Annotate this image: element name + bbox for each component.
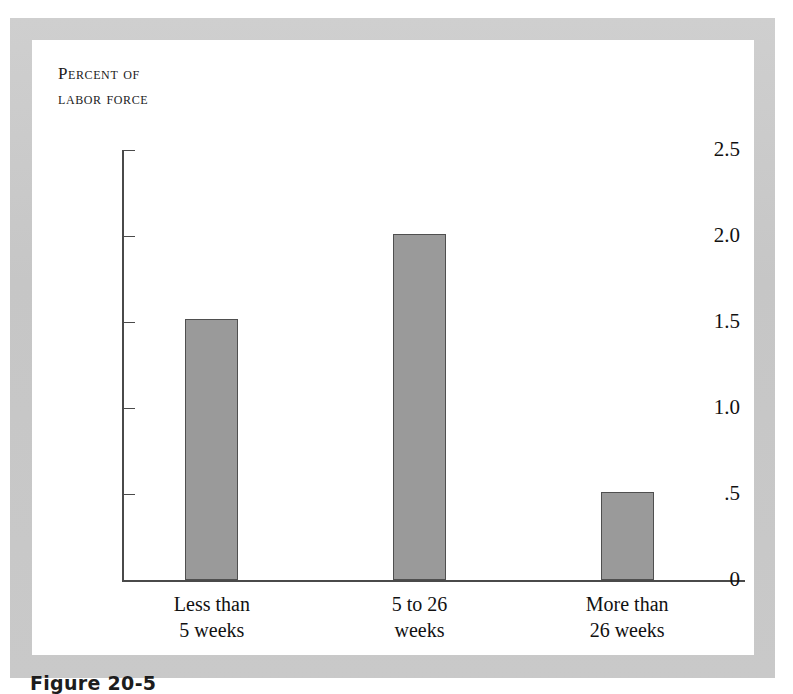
chart-panel: Percent of labor force 2.52.01.51.0.50 L… bbox=[32, 40, 754, 655]
y-tick-mark bbox=[124, 322, 135, 323]
y-tick-label: 2.5 bbox=[668, 139, 754, 160]
x-axis-line bbox=[122, 580, 745, 582]
y-axis-title-line-2: labor force bbox=[58, 87, 148, 112]
x-axis-category-label-line: 5 weeks bbox=[108, 618, 316, 644]
x-axis-category-label-line: More than bbox=[523, 592, 731, 618]
y-axis-line bbox=[122, 150, 124, 582]
y-tick-label: 1.0 bbox=[668, 397, 754, 418]
y-tick-label: .5 bbox=[668, 483, 754, 504]
x-axis-category-label: More than26 weeks bbox=[523, 592, 731, 643]
y-tick-label: 0 bbox=[668, 569, 754, 590]
y-tick-mark bbox=[124, 408, 135, 409]
x-axis-category-label-line: weeks bbox=[316, 618, 524, 644]
x-axis-category-label-line: 26 weeks bbox=[523, 618, 731, 644]
y-axis-title-line-1: Percent of bbox=[58, 62, 148, 87]
x-axis-category-label: 5 to 26weeks bbox=[316, 592, 524, 643]
y-tick-label: 2.0 bbox=[668, 225, 754, 246]
y-tick-mark bbox=[124, 580, 135, 581]
bar bbox=[393, 234, 446, 580]
figure-caption: Figure 20-5 bbox=[30, 672, 156, 694]
y-axis-title: Percent of labor force bbox=[58, 62, 148, 111]
y-tick-mark bbox=[124, 236, 135, 237]
bar bbox=[601, 492, 654, 580]
y-tick-label: 1.5 bbox=[668, 311, 754, 332]
x-axis-category-label-line: 5 to 26 bbox=[316, 592, 524, 618]
x-axis-category-label-line: Less than bbox=[108, 592, 316, 618]
y-tick-mark bbox=[124, 494, 135, 495]
y-tick-mark bbox=[124, 150, 135, 151]
x-axis-category-label: Less than5 weeks bbox=[108, 592, 316, 643]
bar bbox=[185, 319, 238, 580]
